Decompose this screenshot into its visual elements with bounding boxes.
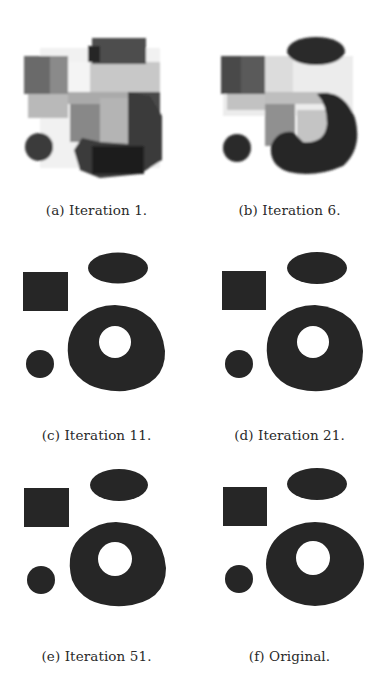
original-image — [193, 450, 387, 645]
caption-e: (e) Iteration 51. — [0, 648, 193, 664]
panel-c-image — [0, 225, 193, 425]
caption-d: (d) Iteration 21. — [193, 427, 386, 443]
caption-f: (f) Original. — [193, 648, 386, 664]
iteration-21-image — [193, 225, 387, 420]
caption-b: (b) Iteration 6. — [193, 202, 386, 218]
caption-c: (c) Iteration 11. — [0, 427, 193, 443]
iteration-1-image — [0, 0, 193, 200]
iteration-51-image — [0, 450, 193, 645]
panel-f-image — [193, 450, 386, 650]
panel-b-image — [193, 0, 386, 200]
panel-d-image — [193, 225, 386, 425]
iteration-6-image — [193, 0, 387, 200]
caption-a: (a) Iteration 1. — [0, 202, 193, 218]
panel-a-image — [0, 0, 193, 200]
iteration-11-image — [0, 225, 193, 420]
panel-e-image — [0, 450, 193, 650]
